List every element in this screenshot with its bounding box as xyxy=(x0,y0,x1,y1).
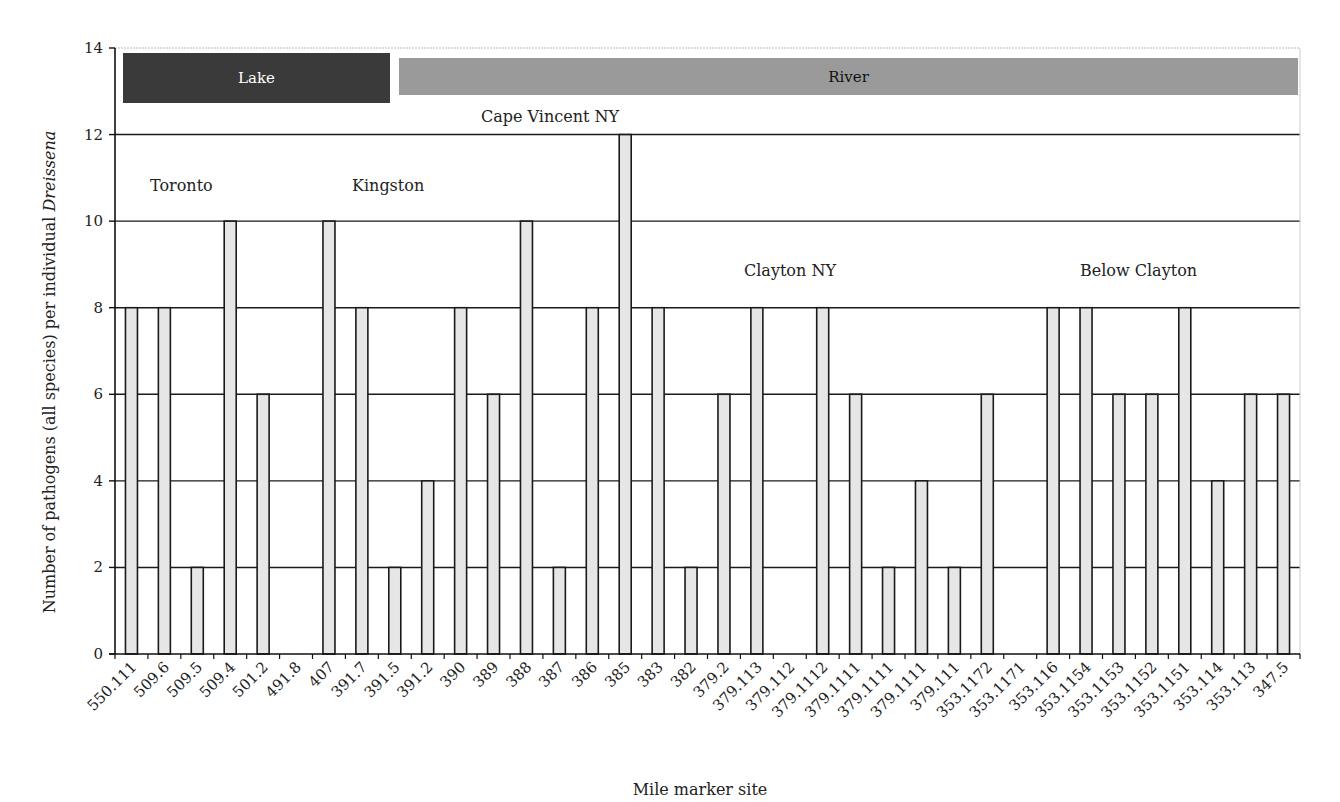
bar-388 xyxy=(520,221,532,654)
band-label-lake: Lake xyxy=(238,69,275,87)
x-tick-label: 491.8 xyxy=(262,658,305,701)
y-axis-title-italic: Dreissena xyxy=(40,131,59,213)
bar-391.7 xyxy=(356,308,368,654)
bar-509.6 xyxy=(158,308,170,654)
bar-550.111 xyxy=(125,308,137,654)
x-tick-label: 509.4 xyxy=(196,658,239,701)
x-tick-label: 390 xyxy=(436,658,469,691)
bar-353.113 xyxy=(1245,394,1257,654)
bar-353.1172 xyxy=(981,394,993,654)
bar-379.1112 xyxy=(817,308,829,654)
bar-347.5 xyxy=(1278,394,1290,654)
bar-379.2 xyxy=(718,394,730,654)
x-tick-label: 385 xyxy=(601,658,634,691)
site-annotations: TorontoKingstonCape Vincent NYClayton NY… xyxy=(150,107,1197,280)
x-tick-label: 391.2 xyxy=(393,658,436,701)
x-tick-label: 347.5 xyxy=(1249,658,1292,701)
y-tick-label: 14 xyxy=(84,39,103,57)
x-tick-label: 387 xyxy=(535,658,568,691)
annotation-kingston: Kingston xyxy=(352,176,424,195)
y-tick-label: 0 xyxy=(93,645,103,663)
bar-390 xyxy=(455,308,467,654)
bar-391.2 xyxy=(422,481,434,654)
bar-353.116 xyxy=(1047,308,1059,654)
bar-509.4 xyxy=(224,221,236,654)
x-tick-label: 386 xyxy=(568,658,601,691)
bar-386 xyxy=(586,308,598,654)
y-axis-title: Number of pathogens (all species) per in… xyxy=(40,131,59,614)
annotation-clayton-ny: Clayton NY xyxy=(744,261,836,280)
y-tick-label: 4 xyxy=(93,472,103,490)
y-tick-label: 12 xyxy=(84,126,103,144)
bar-379.1111 xyxy=(883,567,895,654)
x-tick-label: 391.5 xyxy=(361,658,404,701)
band-label-river: River xyxy=(828,68,869,86)
bar-353.1151 xyxy=(1179,308,1191,654)
bar-379.1111 xyxy=(850,394,862,654)
bar-379.111 xyxy=(948,567,960,654)
bar-509.5 xyxy=(191,567,203,654)
annotation-toronto: Toronto xyxy=(150,176,213,195)
x-axis-ticks: 550.111509.6509.5509.4501.2491.8407391.7… xyxy=(84,654,1300,721)
bar-391.5 xyxy=(389,567,401,654)
y-axis-ticks: 02468101214 xyxy=(84,39,115,663)
bar-chart: LakeRiver 02468101214 550.111509.6509.55… xyxy=(0,0,1340,802)
y-tick-label: 10 xyxy=(84,212,103,230)
bar-387 xyxy=(553,567,565,654)
bar-501.2 xyxy=(257,394,269,654)
bar-353.1152 xyxy=(1146,394,1158,654)
bar-353.1153 xyxy=(1113,394,1125,654)
annotation-cape-vincent-ny: Cape Vincent NY xyxy=(481,107,620,126)
bar-353.1154 xyxy=(1080,308,1092,654)
x-axis-title: Mile marker site xyxy=(633,780,768,799)
bar-407 xyxy=(323,221,335,654)
x-tick-label: 391.7 xyxy=(328,658,371,701)
bar-379.113 xyxy=(751,308,763,654)
x-tick-label: 388 xyxy=(502,658,535,691)
y-tick-label: 6 xyxy=(93,385,103,403)
x-tick-label: 389 xyxy=(469,658,502,691)
bar-353.114 xyxy=(1212,481,1224,654)
y-tick-label: 2 xyxy=(93,558,103,576)
x-tick-label: 509.6 xyxy=(130,658,173,701)
x-tick-label: 509.5 xyxy=(163,658,206,701)
bar-385 xyxy=(619,135,631,654)
annotation-below-clayton: Below Clayton xyxy=(1080,261,1197,280)
x-tick-label: 501.2 xyxy=(229,658,272,701)
bar-382 xyxy=(685,567,697,654)
y-axis-title-main: Number of pathogens (all species) per in… xyxy=(40,211,59,613)
bar-383 xyxy=(652,308,664,654)
bar-379.1111 xyxy=(915,481,927,654)
bar-389 xyxy=(488,394,500,654)
y-tick-label: 8 xyxy=(93,299,103,317)
x-tick-label: 383 xyxy=(634,658,667,691)
